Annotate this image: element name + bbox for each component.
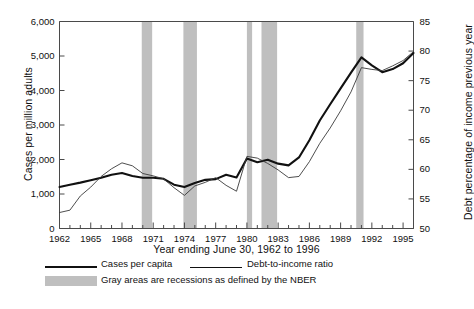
legend-swatch-debt-to-income-ratio	[190, 267, 242, 268]
x-axis-label: Year ending June 30, 1962 to 1996	[59, 243, 414, 255]
legend-label-cases-per-capita: Cases per capita	[101, 258, 172, 269]
y-tick-label-right: 80	[420, 45, 454, 56]
recession-band	[183, 22, 197, 229]
y-tick-label-right: 65	[420, 134, 454, 145]
y-tick-label-right: 50	[420, 223, 454, 234]
y-axis-label-right: Debt percentage of income previous year	[462, 12, 474, 232]
y-tick-label-right: 85	[420, 16, 454, 27]
x-tick-label: 1995	[383, 233, 423, 244]
y-tick-label-right: 55	[420, 193, 454, 204]
y-tick-label-right: 75	[420, 75, 454, 86]
legend-row-series: Cases per capita Debt-to-income ratio	[0, 259, 472, 274]
legend-swatch-recession	[45, 276, 97, 286]
legend-swatch-cases-per-capita	[45, 266, 97, 268]
y-tick-label-left: 2,000	[15, 154, 55, 165]
y-tick-label-left: 5,000	[15, 50, 55, 61]
recession-band	[247, 22, 252, 229]
recession-band	[356, 22, 363, 229]
y-tick-label-right: 60	[420, 163, 454, 174]
recession-band	[261, 22, 277, 229]
legend-label-recession: Gray areas are recessions as defined by …	[101, 274, 316, 285]
legend-row-recession: Gray areas are recessions as defined by …	[0, 274, 472, 289]
y-tick-label-right: 70	[420, 104, 454, 115]
y-tick-label-left: 1,000	[15, 188, 55, 199]
legend-label-debt-to-income-ratio: Debt-to-income ratio	[247, 258, 333, 269]
y-tick-label-left: 3,000	[15, 119, 55, 130]
recession-band	[142, 22, 152, 229]
y-tick-label-left: 4,000	[15, 85, 55, 96]
y-tick-label-left: 6,000	[15, 16, 55, 27]
chart-legend: Cases per capita Debt-to-income ratio Gr…	[0, 259, 472, 289]
